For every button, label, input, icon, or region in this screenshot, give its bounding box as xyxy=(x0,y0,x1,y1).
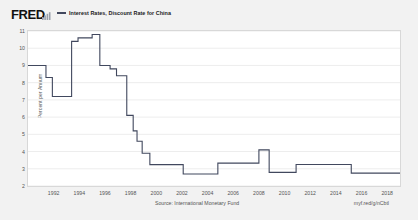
x-axis-tick-label: 2016 xyxy=(356,190,368,196)
source-note: Source: International Monetary Fund xyxy=(155,200,239,206)
chart-header: FRED Interest Rates, Discount Rate for C… xyxy=(0,0,418,26)
y-axis-tick-label: 8 xyxy=(22,80,25,86)
x-axis-tick-label: 2018 xyxy=(381,190,393,196)
x-axis-tick-label: 1994 xyxy=(74,190,86,196)
x-axis-tick-label: 2012 xyxy=(304,190,316,196)
x-axis-tick-label: 2008 xyxy=(253,190,265,196)
x-axis-tick-label: 2014 xyxy=(330,190,342,196)
x-axis-tick-label: 1998 xyxy=(125,190,137,196)
legend-series-label: Interest Rates, Discount Rate for China xyxy=(69,10,171,16)
chart-footer: Source: International Monetary Fund myf.… xyxy=(27,200,401,210)
legend-color-swatch xyxy=(57,12,66,14)
series-plot xyxy=(28,31,400,186)
y-axis-tick-label: 7 xyxy=(22,97,25,103)
x-axis-tick-label: 2010 xyxy=(279,190,291,196)
fred-logo[interactable]: FRED xyxy=(11,8,45,21)
permalink-url[interactable]: myf.red/g/nCbtl xyxy=(354,200,389,206)
y-axis-tick-label: 11 xyxy=(20,28,25,34)
x-axis-tick-label: 2002 xyxy=(176,190,188,196)
y-axis-tick-label: 4 xyxy=(22,149,25,155)
y-axis-tick-label: 9 xyxy=(22,62,25,68)
x-axis-tick-label: 1996 xyxy=(99,190,111,196)
x-axis-tick-label: 2004 xyxy=(202,190,214,196)
y-axis-tick-label: 2 xyxy=(22,183,25,189)
plot-area: Percent per Annum 234567891011 199219941… xyxy=(27,30,401,187)
chart-legend: Interest Rates, Discount Rate for China xyxy=(57,10,171,16)
fred-chart-screenshot: FRED Interest Rates, Discount Rate for C… xyxy=(0,0,418,220)
x-axis-tick-label: 1992 xyxy=(48,190,60,196)
x-axis-tick-label: 2006 xyxy=(227,190,239,196)
bar-chart-icon xyxy=(42,12,51,20)
y-axis-tick-label: 10 xyxy=(19,45,25,51)
y-axis-tick-label: 5 xyxy=(22,131,25,137)
x-axis-tick-label: 2000 xyxy=(150,190,162,196)
y-axis-tick-label: 6 xyxy=(22,114,25,120)
y-axis-tick-label: 3 xyxy=(22,166,25,172)
